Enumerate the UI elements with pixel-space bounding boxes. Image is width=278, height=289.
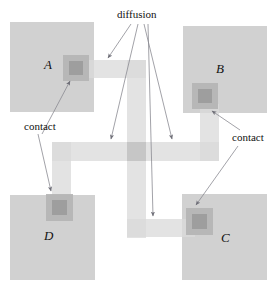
leader-contact-left-to-d — [38, 134, 51, 191]
contact-cut-b — [198, 89, 212, 103]
leader-diffusion-to-right-mid — [144, 24, 172, 139]
contact-cut-d — [52, 200, 67, 215]
track-bottom-horizontal — [127, 219, 195, 237]
layout-diagram: A B D C diffusion contact contact — [0, 0, 278, 289]
region-label-d: D — [44, 229, 53, 242]
leader-diffusion-to-bottom-track — [148, 24, 153, 216]
contact-cut-c — [192, 214, 207, 229]
leader-diffusion-to-top-track — [108, 24, 131, 58]
label-contact-left: contact — [24, 121, 56, 132]
region-label-c: C — [221, 231, 230, 244]
track-crossing-center — [127, 142, 146, 161]
region-label-a: A — [44, 58, 52, 71]
contact-cut-a — [69, 61, 83, 75]
track-right-vertical — [200, 104, 219, 161]
label-contact-right: contact — [232, 132, 264, 143]
label-diffusion: diffusion — [117, 9, 157, 20]
region-label-b: B — [216, 62, 224, 75]
